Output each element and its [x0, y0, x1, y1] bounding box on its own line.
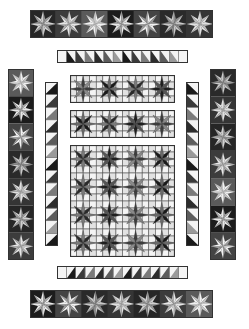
star-block — [210, 96, 236, 123]
star-block — [134, 10, 162, 38]
star-block — [210, 151, 236, 178]
star-block — [108, 290, 136, 318]
right-star-border — [210, 69, 236, 260]
star-block — [55, 10, 83, 38]
star-block — [30, 10, 57, 38]
star-block — [123, 75, 149, 103]
star-block — [210, 69, 236, 96]
star-block — [96, 229, 122, 257]
center-row-1 — [70, 75, 175, 103]
center-main-block — [70, 145, 175, 257]
star-block — [96, 201, 122, 229]
star-block — [70, 145, 96, 173]
star-block — [149, 229, 175, 257]
star-block — [81, 10, 109, 38]
star-block — [70, 201, 96, 229]
star-block — [149, 201, 175, 229]
star-block — [186, 290, 213, 318]
star-block — [160, 290, 188, 318]
star-block — [210, 178, 236, 205]
star-block — [149, 110, 175, 138]
star-block — [96, 145, 122, 173]
left-hst-border — [45, 82, 58, 246]
star-block — [210, 233, 236, 260]
star-block — [8, 233, 34, 260]
star-block — [8, 178, 34, 205]
star-block — [123, 145, 149, 173]
star-block — [8, 96, 34, 123]
star-block — [8, 205, 34, 232]
top-star-border — [30, 10, 213, 38]
star-block — [96, 110, 122, 138]
star-block — [8, 151, 34, 178]
star-block — [123, 201, 149, 229]
star-block — [70, 75, 96, 103]
star-block — [55, 290, 83, 318]
star-block — [8, 124, 34, 151]
star-block — [70, 110, 96, 138]
star-block — [70, 229, 96, 257]
star-block — [123, 229, 149, 257]
star-block — [70, 173, 96, 201]
star-block — [108, 10, 136, 38]
star-block — [149, 173, 175, 201]
center-row-2 — [70, 110, 175, 138]
left-star-border — [8, 69, 34, 260]
star-block — [210, 124, 236, 151]
star-block — [30, 290, 57, 318]
star-block — [160, 10, 188, 38]
star-block — [8, 69, 34, 96]
star-block — [81, 290, 109, 318]
star-block — [123, 110, 149, 138]
bottom-star-border — [30, 290, 213, 318]
star-block — [149, 75, 175, 103]
star-block — [134, 290, 162, 318]
top-hst-border — [57, 50, 188, 63]
star-block — [96, 173, 122, 201]
star-block — [210, 205, 236, 232]
star-block — [149, 145, 175, 173]
bottom-hst-border — [57, 266, 188, 279]
star-block — [186, 10, 213, 38]
star-block — [96, 75, 122, 103]
star-block — [123, 173, 149, 201]
right-hst-border — [186, 82, 199, 246]
